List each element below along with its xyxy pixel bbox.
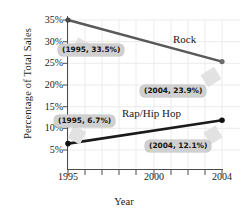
callout-rap-2004: (2004, 12.1%)	[145, 140, 211, 152]
series-label-rap-hip-hop: Rap/Hip Hop	[122, 107, 181, 119]
chart-container: 35% 30% 25% 20% 15% 10% 5% 1995 2000 200…	[0, 0, 248, 215]
callout-rap-1995: (1995, 6.7%)	[54, 115, 115, 127]
x-tick-label-2004: 2004	[202, 172, 242, 182]
x-axis-title: Year	[0, 196, 248, 207]
y-axis-title: Percentage of Total Sales	[22, 9, 33, 159]
callout-rock-2004: (2004, 23.9%)	[140, 85, 206, 97]
series-label-rock: Rock	[173, 33, 196, 45]
x-tick-label-2000: 2000	[134, 172, 174, 182]
data-point-rap-2004	[219, 117, 225, 123]
data-point-rock-2004	[219, 59, 224, 64]
data-point-rock-1995	[65, 17, 70, 22]
callout-rock-1995: (1995, 33.5%)	[58, 44, 124, 56]
data-point-rap-1995	[65, 141, 71, 147]
x-tick-label-1995: 1995	[48, 172, 88, 182]
y-axis-ticks	[63, 20, 68, 150]
